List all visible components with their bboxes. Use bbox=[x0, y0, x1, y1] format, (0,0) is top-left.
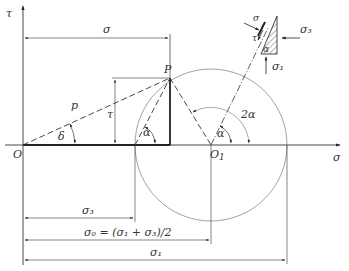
tau-dimension-label: τ bbox=[107, 108, 114, 121]
alpha-left-label: α bbox=[143, 126, 151, 139]
two-alpha-label: 2α bbox=[240, 108, 256, 121]
delta-angle-arc bbox=[70, 124, 75, 143]
point-p-label: P bbox=[163, 63, 172, 76]
inset-tau-label: τ bbox=[252, 33, 258, 43]
sigma3-dim-label: σ₃ bbox=[82, 204, 94, 217]
tau-axis-label: τ bbox=[6, 7, 13, 20]
inset-sigma1-label: σ₁ bbox=[272, 60, 284, 73]
sigma-axis-label: σ bbox=[333, 151, 341, 164]
inset-alpha-label: α bbox=[263, 44, 269, 54]
point-o1-label: O1 bbox=[210, 148, 225, 162]
sigma-top-label: σ bbox=[103, 23, 111, 36]
inset-sigma-label: σ bbox=[253, 13, 260, 23]
mohr-circle-diagram: τ σ O P O1 σ p τ δ α α 2α σ₃ σ₀ = (σ₁ + … bbox=[0, 0, 349, 271]
origin-label: O bbox=[13, 148, 22, 161]
radius-p bbox=[170, 78, 211, 145]
delta-label: δ bbox=[58, 130, 65, 143]
p-vector-label: p bbox=[71, 99, 78, 112]
inset-sigma3-label: σ₃ bbox=[300, 23, 312, 36]
alpha-right-label: α bbox=[217, 127, 225, 140]
sigma1-dim-label: σ₁ bbox=[150, 246, 162, 259]
sigma-arrow bbox=[244, 23, 259, 30]
sigma0-dim-label: σ₀ = (σ₁ + σ₃)/2 bbox=[84, 226, 171, 239]
